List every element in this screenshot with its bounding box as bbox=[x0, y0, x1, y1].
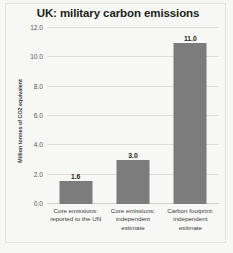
y-axis-label: Million tonnes of CO2 equivalent bbox=[17, 61, 23, 181]
x-axis-label-line: reported to the UN bbox=[47, 215, 104, 223]
y-axis-tick-label: 0.0 bbox=[34, 200, 43, 207]
bar-value-label: 3.0 bbox=[128, 152, 137, 159]
y-axis-tick-label: 8.0 bbox=[34, 82, 43, 89]
bar[interactable] bbox=[116, 160, 149, 204]
y-axis-tick-label: 6.0 bbox=[34, 112, 43, 119]
bar-group[interactable]: 11.0 bbox=[162, 28, 219, 204]
x-axis-label-line: estimate bbox=[162, 224, 219, 232]
chart-title: UK: military carbon emissions bbox=[18, 7, 218, 19]
bar[interactable] bbox=[174, 43, 207, 204]
bar-group[interactable]: 1.6 bbox=[47, 28, 104, 204]
bars-layer: 1.63.011.0 bbox=[47, 28, 219, 204]
y-axis-tick-label: 10.0 bbox=[30, 53, 43, 60]
x-axis-label: Core emissions:reported to the UN bbox=[47, 207, 104, 224]
y-axis-tick-label: 4.0 bbox=[34, 141, 43, 148]
y-axis-tick-label: 2.0 bbox=[34, 170, 43, 177]
x-axis-label-line: Core emissions: bbox=[47, 207, 104, 215]
bar-value-label: 1.6 bbox=[71, 173, 80, 180]
x-axis-label: Carbon footprint:independentestimate bbox=[162, 207, 219, 232]
x-axis-label-line: independent bbox=[104, 215, 161, 223]
x-axis-label-line: Core emissions: bbox=[104, 207, 161, 215]
bar-value-label: 11.0 bbox=[184, 35, 197, 42]
x-axis-label-line: Carbon footprint: bbox=[162, 207, 219, 215]
y-axis-tick-label: 12.0 bbox=[30, 24, 43, 31]
x-axis-category-labels: Core emissions:reported to the UNCore em… bbox=[47, 207, 219, 245]
x-axis-label-line: independent bbox=[162, 215, 219, 223]
x-axis-label: Core emissions:independentestimate bbox=[104, 207, 161, 232]
x-axis-label-line: estimate bbox=[104, 224, 161, 232]
bar[interactable] bbox=[59, 181, 92, 204]
chart-container: UK: military carbon emissions Million to… bbox=[0, 0, 233, 253]
bar-group[interactable]: 3.0 bbox=[104, 28, 161, 204]
plot-area: 0.02.04.06.08.010.012.0 1.63.011.0 bbox=[47, 28, 219, 204]
